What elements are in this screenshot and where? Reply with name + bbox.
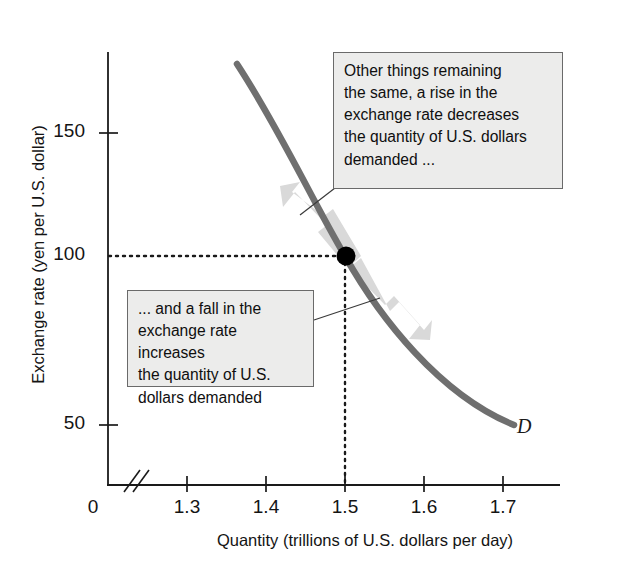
callout-rise-line-2: the same, a rise in the: [344, 82, 553, 104]
x-tick-label-1-4: 1.4: [236, 496, 296, 518]
callout-rise-line-3: exchange rate decreases: [344, 104, 553, 126]
callout-fall-line-4: dollars demanded: [138, 387, 304, 409]
y-tick-label-150: 150: [25, 120, 85, 142]
callout-fall-line-2: exchange rate increases: [138, 320, 304, 364]
y-tick-label-100: 100: [25, 243, 85, 265]
callout-rise-line-4: the quantity of U.S. dollars: [344, 126, 553, 148]
exchange-rate-demand-figure: Dollars: [0, 0, 620, 567]
y-tick-label-50: 50: [25, 412, 85, 434]
callout-fall-line-3: the quantity of U.S.: [138, 364, 304, 386]
callout-fall: ... and a fall in the exchange rate incr…: [127, 290, 314, 387]
x-tick-label-1-6: 1.6: [394, 496, 454, 518]
origin-label: 0: [78, 496, 108, 518]
x-axis-break-icon: [124, 470, 149, 492]
callout-fall-line-1: ... and a fall in the: [138, 298, 304, 320]
leader-line-fall: [314, 298, 380, 320]
callout-rise-line-5: demanded ...: [344, 149, 553, 171]
x-tick-label-1-5: 1.5: [315, 496, 375, 518]
x-tick-label-1-3: 1.3: [157, 496, 217, 518]
demand-curve-label: D: [517, 415, 531, 438]
callout-rise-line-1: Other things remaining: [344, 60, 553, 82]
x-tick-label-1-7: 1.7: [473, 496, 533, 518]
x-axis-title: Quantity (trillions of U.S. dollars per …: [120, 531, 610, 550]
callout-rise: Other things remaining the same, a rise …: [333, 52, 563, 189]
equilibrium-point-marker: [337, 247, 356, 266]
